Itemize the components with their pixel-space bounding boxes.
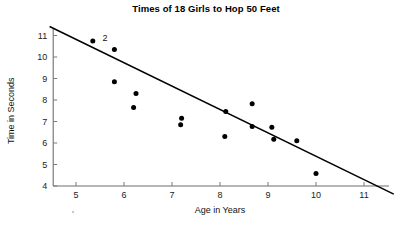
y-tick-label-10: 10 (37, 52, 47, 62)
y-tick-label-5: 5 (42, 160, 47, 170)
y-tick-label-9: 9 (42, 74, 47, 84)
trend-line (50, 26, 394, 194)
plot-area: 2 5678910114567891011Age in YearsTime in… (0, 0, 412, 225)
y-tick-label-8: 8 (42, 95, 47, 105)
data-point-1[interactable] (112, 47, 117, 52)
data-point-2[interactable] (112, 79, 117, 84)
data-point-7[interactable] (223, 109, 228, 114)
page-speck (72, 211, 74, 213)
x-tick-label-7: 7 (169, 190, 174, 200)
data-point-4[interactable] (131, 105, 136, 110)
trend-line-layer (50, 26, 394, 194)
data-point-8[interactable] (222, 134, 227, 139)
data-point-3[interactable] (134, 91, 139, 96)
x-tick-label-6: 6 (121, 190, 126, 200)
x-tick-label-8: 8 (217, 190, 222, 200)
data-points-layer: 2 (90, 33, 318, 176)
y-tick-label-4: 4 (42, 181, 47, 191)
data-point-0[interactable] (90, 38, 95, 43)
data-point-9[interactable] (250, 101, 255, 106)
point-count-annotation-0: 2 (102, 33, 107, 43)
data-point-11[interactable] (269, 125, 274, 130)
data-point-5[interactable] (179, 116, 184, 121)
x-tick-label-10: 10 (311, 190, 321, 200)
y-tick-label-6: 6 (42, 138, 47, 148)
x-tick-label-5: 5 (73, 190, 78, 200)
axis-labels-layer: 5678910114567891011Age in YearsTime in S… (6, 31, 369, 215)
data-point-10[interactable] (250, 124, 255, 129)
y-axis-title: Time in Seconds (6, 77, 16, 144)
data-point-12[interactable] (271, 137, 276, 142)
data-point-14[interactable] (314, 171, 319, 176)
data-point-6[interactable] (178, 122, 183, 127)
x-tick-label-9: 9 (265, 190, 270, 200)
y-tick-label-7: 7 (42, 117, 47, 127)
x-tick-label-11: 11 (359, 190, 368, 200)
x-axis-title: Age in Years (195, 205, 246, 215)
y-tick-label-11: 11 (38, 31, 47, 41)
data-point-13[interactable] (294, 138, 299, 143)
scatter-chart: Times of 18 Girls to Hop 50 Feet 2 56789… (0, 0, 412, 225)
